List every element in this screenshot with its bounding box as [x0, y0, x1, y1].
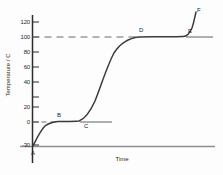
y-tick-label-40: 40: [10, 79, 30, 85]
y-axis-ticks: [33, 22, 40, 145]
y-axis-title: Temperature / C: [5, 45, 11, 105]
point-label-f: F: [197, 7, 201, 13]
point-label-c: C: [84, 123, 88, 129]
y-tick-label-20: 20: [10, 104, 30, 110]
y-tick-label-80: 80: [10, 49, 30, 55]
point-label-b: B: [57, 112, 61, 118]
point-label-a: A: [31, 150, 35, 156]
point-label-d: D: [139, 27, 143, 33]
chart-plot-area: [0, 0, 223, 175]
heating-curve: [33, 12, 196, 146]
y-tick-label-minus30: -30: [8, 142, 30, 148]
point-label-e: E: [188, 28, 192, 34]
y-tick-label-60: 60: [10, 64, 30, 70]
temperature-time-chart: 120 100 80 60 40 20 0 -30 A B C D E F Te…: [0, 0, 223, 175]
y-tick-label-120: 120: [10, 19, 30, 25]
x-axis-title: Time: [92, 156, 152, 162]
y-tick-label-0: 0: [10, 119, 30, 125]
y-tick-label-100: 100: [10, 34, 30, 40]
